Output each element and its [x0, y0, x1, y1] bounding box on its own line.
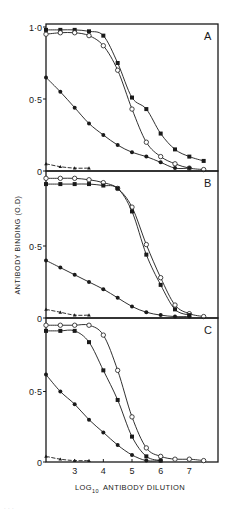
- data-point-filled-circle: [44, 373, 48, 377]
- data-point-square: [173, 307, 177, 311]
- data-point-square: [73, 329, 77, 333]
- y-tick-label: 0: [37, 167, 42, 177]
- data-point-open-circle: [173, 162, 177, 166]
- panel-c: C00·534567: [29, 318, 218, 476]
- x-tick-label: 3: [72, 466, 77, 476]
- data-point-square: [44, 329, 48, 333]
- data-point-open-circle: [144, 140, 148, 144]
- data-point-filled-circle: [73, 273, 77, 277]
- data-point-filled-circle: [116, 443, 120, 447]
- data-point-square: [44, 182, 48, 186]
- series-filled-triangles: [44, 308, 91, 317]
- data-point-filled-circle: [101, 287, 105, 291]
- data-point-open-circle: [72, 176, 76, 180]
- x-axis-label-rest: ANTIBODY DILUTION: [103, 483, 185, 492]
- data-point-open-circle: [58, 31, 62, 35]
- data-point-square: [116, 398, 120, 402]
- x-axis-label-subscript: 10: [92, 488, 99, 494]
- data-point-open-circle: [130, 107, 134, 111]
- data-point-open-circle: [173, 457, 177, 461]
- data-point-square: [130, 96, 134, 100]
- y-tick-label: 0·5: [29, 95, 42, 105]
- data-point-open-circle: [44, 176, 48, 180]
- data-point-filled-circle: [58, 266, 62, 270]
- y-tick-label: 1·0: [29, 23, 42, 33]
- panel-frame: [46, 171, 218, 318]
- data-point-open-circle: [115, 368, 119, 372]
- data-point-filled-circle: [101, 430, 105, 434]
- data-point-square: [58, 182, 62, 186]
- series-line: [46, 30, 204, 161]
- data-point-square: [116, 61, 120, 65]
- caption-fragment: · · ·: [4, 505, 226, 511]
- data-point-filled-circle: [116, 296, 120, 300]
- data-point-filled-circle: [173, 166, 177, 170]
- data-point-square: [101, 184, 105, 188]
- data-point-open-circle: [72, 31, 76, 35]
- series-open-circles: [44, 323, 206, 463]
- x-tick-label: 6: [158, 466, 163, 476]
- data-point-filled-circle: [144, 155, 148, 159]
- x-tick-label: 7: [187, 466, 192, 476]
- series-filled-squares: [44, 329, 163, 463]
- data-point-open-circle: [58, 323, 62, 327]
- y-tick-label: 0·5: [29, 242, 42, 252]
- data-point-open-circle: [44, 323, 48, 327]
- series-line: [46, 456, 89, 460]
- data-point-filled-circle: [87, 121, 91, 125]
- series-line: [46, 375, 161, 461]
- data-point-square: [202, 159, 206, 163]
- data-point-filled-circle: [44, 75, 48, 79]
- series-line: [46, 178, 204, 316]
- data-point-open-circle: [158, 154, 162, 158]
- data-point-square: [159, 283, 163, 287]
- series-line: [46, 164, 89, 168]
- panel-b: B00·5: [29, 171, 218, 324]
- data-point-filled-circle: [44, 258, 48, 262]
- x-axis-label-log: LOG: [75, 483, 92, 492]
- data-point-square: [44, 28, 48, 32]
- data-point-filled-circle: [73, 402, 77, 406]
- data-point-filled-circle: [73, 106, 77, 110]
- data-point-open-circle: [158, 454, 162, 458]
- data-point-square: [116, 186, 120, 190]
- panel-label: B: [204, 177, 211, 189]
- data-point-open-circle: [144, 446, 148, 450]
- series-line: [46, 260, 189, 316]
- data-point-open-circle: [44, 32, 48, 36]
- data-point-filled-circle: [58, 390, 62, 394]
- data-point-triangle: [44, 162, 48, 165]
- data-point-square: [130, 209, 134, 213]
- x-tick-label: 5: [129, 466, 134, 476]
- data-point-square: [159, 132, 163, 136]
- data-point-square: [87, 182, 91, 186]
- data-point-open-circle: [101, 333, 105, 337]
- series-filled-circles: [44, 258, 191, 318]
- data-point-filled-circle: [101, 133, 105, 137]
- series-filled-squares: [44, 28, 206, 163]
- series-open-circles: [44, 31, 206, 172]
- series-line: [46, 309, 89, 315]
- data-point-square: [101, 368, 105, 372]
- data-point-filled-circle: [159, 459, 163, 463]
- x-tick-label: 4: [101, 466, 106, 476]
- data-point-square: [87, 29, 91, 33]
- data-point-filled-circle: [58, 90, 62, 94]
- data-point-open-circle: [130, 415, 134, 419]
- data-point-square: [58, 329, 62, 333]
- x-axis-label: LOG10ANTIBODY DILUTION: [75, 483, 185, 494]
- data-point-square: [187, 155, 191, 159]
- data-point-open-circle: [158, 275, 162, 279]
- data-point-square: [101, 34, 105, 38]
- data-point-filled-circle: [187, 166, 191, 170]
- data-point-open-circle: [87, 323, 91, 327]
- data-point-filled-circle: [87, 418, 91, 422]
- series-line: [46, 330, 161, 461]
- data-point-square: [130, 435, 134, 439]
- y-tick-label: 0: [37, 314, 42, 324]
- data-point-filled-circle: [144, 459, 148, 463]
- data-point-filled-circle: [130, 453, 134, 457]
- series-line: [46, 184, 189, 315]
- panels: A00·51·0B00·5C00·534567: [29, 23, 218, 477]
- series-line: [46, 77, 189, 168]
